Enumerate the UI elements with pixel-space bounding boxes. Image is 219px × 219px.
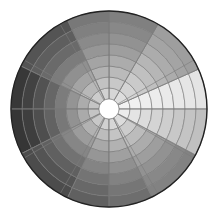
polar-grayscale-chart xyxy=(0,0,219,219)
center-disk xyxy=(99,99,119,119)
